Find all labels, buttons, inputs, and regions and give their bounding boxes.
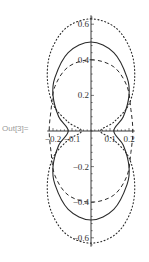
y-tick-label: −0.6 xyxy=(73,233,90,243)
plot-axes xyxy=(47,15,134,246)
y-tick-label: 0.6 xyxy=(78,19,90,29)
x-tick-label: −0.2 xyxy=(45,134,61,144)
y-tick-label: 0.4 xyxy=(78,55,90,65)
y-tick-label: −0.2 xyxy=(73,162,89,172)
x-tick-label: −0.1 xyxy=(64,134,80,144)
x-tick-label: 0.2 xyxy=(123,134,134,144)
y-tick-label: 0.2 xyxy=(78,90,89,100)
y-tick-label: −0.4 xyxy=(73,197,90,207)
x-tick-label: 0.1 xyxy=(104,134,115,144)
polar-plot: −0.2−0.10.10.20.60.40.2−0.2−0.4−0.6 xyxy=(0,0,149,262)
